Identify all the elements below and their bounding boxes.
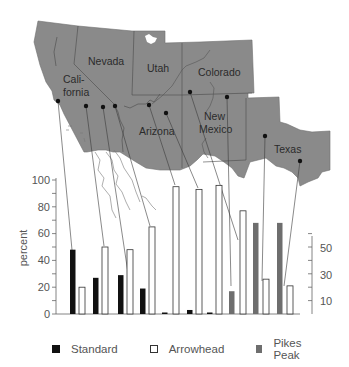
bar-standard [187, 310, 193, 314]
site-dot [113, 104, 117, 108]
bar-standard [93, 278, 99, 314]
bar-arrowhead [127, 250, 133, 314]
right-ytick-30: 30 [320, 269, 332, 281]
bar-pikes-peak [253, 223, 259, 314]
bar-pikes-peak [229, 291, 235, 314]
label-utah: Utah [147, 62, 169, 74]
bar-standard [70, 250, 76, 314]
bar-standard [118, 275, 124, 314]
ytick-60: 60 [38, 227, 50, 239]
bar-arrowhead [216, 185, 222, 314]
label-texas: Texas [274, 143, 301, 155]
bar-arrowhead [79, 287, 85, 314]
label-new-mexico-line1: New [204, 110, 225, 122]
bar-standard [162, 313, 168, 315]
right-y-axis: 10 30 50 [308, 234, 332, 314]
ytick-80: 80 [38, 201, 50, 213]
bar-arrowhead [149, 227, 155, 314]
leader-site-10 [284, 161, 300, 286]
right-ytick-50: 50 [320, 242, 332, 254]
map-bar-chart-figure: Nevada Utah Colorado Cali- fornia Arizon… [0, 0, 349, 367]
site-dot [84, 104, 88, 108]
legend-swatch-pikes-peak [256, 345, 262, 353]
legend-label-standard: Standard [71, 343, 118, 355]
legend: Standard Arrowhead Pikes Peak [52, 337, 349, 361]
bar-arrowhead [196, 189, 202, 314]
legend-label-arrowhead: Arrowhead [169, 343, 225, 355]
right-ytick-10: 10 [320, 295, 332, 307]
site-dot [147, 103, 151, 107]
label-nevada: Nevada [88, 55, 124, 67]
site-dot [101, 105, 105, 109]
bar-series [70, 185, 293, 314]
label-arizona: Arizona [139, 125, 175, 137]
label-california-line2: fornia [63, 86, 89, 98]
bar-pikes-peak [277, 223, 283, 314]
legend-label-pikes-peak: Pikes Peak [273, 337, 317, 361]
bar-standard [140, 289, 146, 314]
label-colorado: Colorado [198, 66, 241, 78]
legend-item-arrowhead: Arrowhead [150, 343, 225, 355]
site-dot [164, 111, 168, 115]
ytick-0: 0 [44, 308, 50, 320]
bar-arrowhead [102, 247, 108, 314]
site-dot [56, 99, 60, 103]
ytick-40: 40 [38, 254, 50, 266]
bar-standard [207, 313, 213, 315]
legend-item-pikes-peak: Pikes Peak [256, 337, 317, 361]
bar-arrowhead [240, 211, 246, 314]
label-california-line1: Cali- [63, 73, 85, 85]
bar-arrowhead [263, 279, 269, 314]
site-dot [263, 134, 267, 138]
ytick-20: 20 [38, 281, 50, 293]
southwest-us-map [34, 21, 330, 186]
ytick-100: 100 [32, 174, 50, 186]
legend-swatch-standard [52, 345, 60, 353]
y-axis-title: percent [17, 230, 29, 267]
legend-swatch-arrowhead [150, 345, 158, 353]
bar-arrowhead [173, 187, 179, 314]
site-dot [188, 90, 192, 94]
bar-arrowhead [287, 286, 293, 314]
site-dot [298, 159, 302, 163]
site-dot [225, 95, 229, 99]
legend-item-standard: Standard [52, 343, 118, 355]
